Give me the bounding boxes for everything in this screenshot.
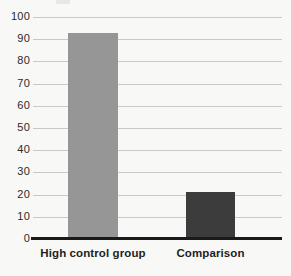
y-axis-tick-label: 40 [2,144,30,155]
bars-layer [33,17,282,239]
y-axis-tick-label: 30 [2,166,30,177]
bar-chart-figure: 0102030405060708090100 High control grou… [0,0,291,276]
y-axis-tick-label: 70 [2,78,30,89]
x-axis-baseline [31,237,282,240]
bar [186,192,235,239]
bar [68,33,118,239]
x-axis-category-label: Comparison [131,246,291,260]
y-axis-tick-label: 60 [2,100,30,111]
y-axis-tick-labels: 0102030405060708090100 [0,17,30,239]
y-axis-tick-label: 20 [2,189,30,200]
y-axis-tick-label: 50 [2,122,30,133]
y-axis-tick-label: 100 [2,11,30,22]
y-axis-tick-label: 0 [2,233,30,244]
y-axis-tick-label: 10 [2,211,30,222]
scan-artifact [56,0,70,4]
y-axis-tick-label: 80 [2,55,30,66]
y-axis-tick-label: 90 [2,33,30,44]
x-axis-category-labels: High control groupComparison [0,246,291,266]
